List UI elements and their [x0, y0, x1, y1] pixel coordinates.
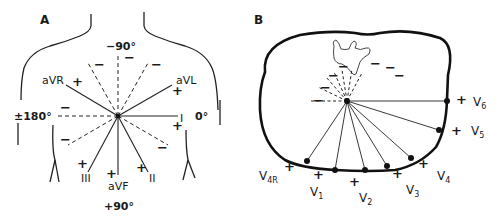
plus-sign-avf: + [106, 166, 117, 181]
lead-v6-label: V6 [473, 95, 486, 111]
lead-v3-label: V3 [406, 183, 419, 199]
minus-sign: − [370, 56, 381, 71]
lead-ii-label: II [149, 172, 156, 185]
electrode-v4 [408, 155, 414, 161]
angle-180: ±180° [14, 110, 52, 123]
electrode-v6 [444, 98, 450, 104]
plus-sign-iii: + [77, 156, 88, 171]
electrode-v5 [436, 127, 442, 133]
angle-plus-90: +90° [104, 200, 134, 213]
plus-sign-ii: + [136, 160, 147, 175]
minus-sign-avf: − [124, 50, 135, 65]
panel-b-label: B [254, 13, 263, 27]
plus-sign-v5: + [451, 123, 462, 138]
torso-outline [18, 12, 220, 182]
minus-sign-avl: − [60, 132, 71, 147]
minus-sign-i: − [60, 100, 71, 115]
plus-sign-i: + [172, 118, 183, 133]
minus-sign: − [338, 59, 349, 74]
plus-sign-v2: + [349, 174, 360, 189]
minus-sign-iii: − [151, 57, 162, 72]
minus-sign: − [313, 93, 324, 108]
ecg-lead-diagram: A [0, 0, 502, 219]
plus-sign-avl: + [172, 83, 183, 98]
lead-v1-label: V1 [310, 185, 323, 201]
electrode-v1 [332, 167, 338, 173]
center-point [116, 114, 120, 118]
lead-v4r-label: V4R [259, 169, 278, 185]
minus-sign-ii: − [94, 57, 105, 72]
lead-avf-label: aVF [108, 180, 129, 193]
minus-sign: − [394, 68, 405, 83]
panel-b: B [254, 13, 486, 207]
panel-a-label: A [40, 13, 50, 27]
lead-avr-label: aVR [42, 74, 64, 87]
lead-v5-label: V5 [471, 124, 484, 140]
lead-v4-label: V4 [437, 169, 450, 185]
minus-sign-avr: − [157, 140, 168, 155]
electrode-v3 [384, 163, 390, 169]
plus-sign-v1: + [313, 167, 324, 182]
lead-v2-label: V2 [359, 191, 372, 207]
plus-sign-v4: + [418, 156, 429, 171]
angle-0: 0° [195, 110, 208, 123]
plus-sign-v6: + [456, 92, 467, 107]
heart-center-point [344, 98, 350, 104]
plus-sign-avr: + [72, 74, 83, 89]
lead-iii-label: III [81, 172, 91, 185]
electrode-v4r [304, 158, 310, 164]
plus-sign-v4r: + [284, 159, 295, 174]
electrode-v2 [362, 167, 368, 173]
plus-sign-v3: + [392, 166, 403, 181]
panel-a: A [14, 12, 220, 213]
